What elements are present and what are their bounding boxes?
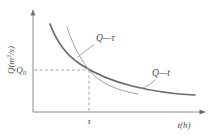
y-tick-label-subscript: 0 bbox=[23, 69, 27, 76]
q-tau-curve-label: Q—τ bbox=[96, 33, 115, 43]
figure-container: Q(m3/s) t(h) Q0 τ Q—τ Q—t bbox=[0, 0, 217, 137]
x-tick-label-tau: τ bbox=[87, 116, 91, 126]
q-t-label-var: t bbox=[167, 68, 170, 78]
q-t-curve-label: Q—t bbox=[152, 68, 170, 78]
y-tick-label-q0: Q0 bbox=[16, 65, 27, 76]
x-axis-arrowhead bbox=[200, 110, 207, 115]
x-axis-label: t(h) bbox=[178, 120, 191, 130]
q-t-curve bbox=[50, 24, 195, 95]
y-axis-label: Q(m3/s) bbox=[6, 46, 16, 74]
q-tau-leader-line bbox=[78, 45, 94, 57]
y-axis-label-tail: /s) bbox=[6, 46, 16, 56]
q-tau-label-var: τ bbox=[111, 33, 115, 43]
figure-canvas: Q(m3/s) t(h) Q0 τ Q—τ Q—t bbox=[0, 0, 217, 137]
y-axis-label-main: Q(m bbox=[6, 58, 16, 74]
y-axis-arrowhead bbox=[31, 9, 36, 16]
